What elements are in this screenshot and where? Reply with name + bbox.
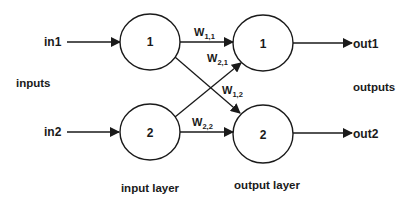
weight-label-w11: W1,1 bbox=[194, 26, 215, 41]
output-layer-label: output layer bbox=[234, 179, 300, 191]
output-node-1-label: 1 bbox=[260, 37, 267, 51]
weight-label-w12: W1,2 bbox=[222, 84, 243, 99]
weight-label-w22: W2,2 bbox=[192, 116, 213, 131]
output-node-2-label: 2 bbox=[260, 128, 267, 142]
inputs-group-label: inputs bbox=[16, 77, 51, 89]
weight-label-w21: W2,1 bbox=[207, 52, 228, 67]
output-label-out1: out1 bbox=[353, 37, 379, 51]
input-node-1-label: 1 bbox=[147, 35, 154, 49]
input-label-in2: in2 bbox=[44, 125, 62, 139]
outputs-group-label: outputs bbox=[353, 81, 395, 93]
input-label-in1: in1 bbox=[44, 35, 62, 49]
output-label-out2: out2 bbox=[353, 127, 379, 141]
neural-network-diagram: 1 2 1 2 in1 in2 out1 out2 inputs outputs… bbox=[0, 0, 410, 204]
input-layer-label: input layer bbox=[121, 182, 180, 194]
input-node-2-label: 2 bbox=[147, 126, 154, 140]
